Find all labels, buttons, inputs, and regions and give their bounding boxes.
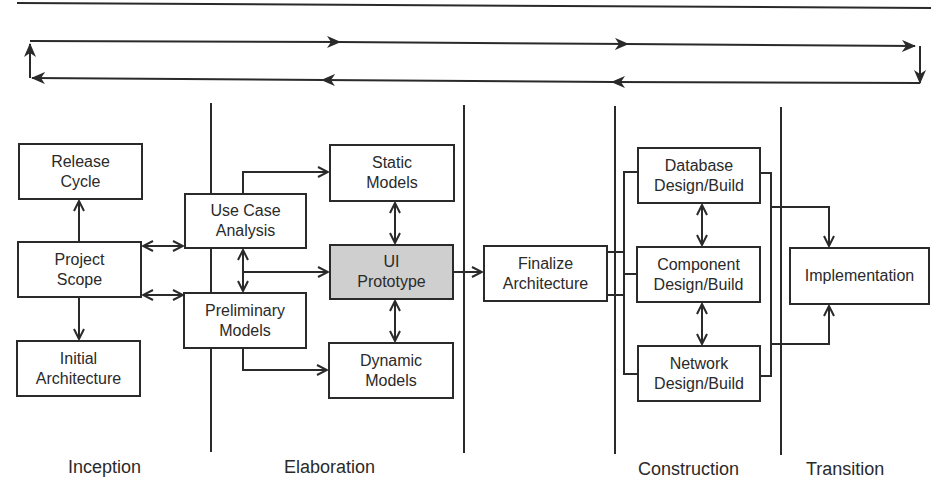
label-ui-prototype: UI Prototype bbox=[330, 245, 453, 299]
iteration-loop-arrows bbox=[30, 41, 920, 83]
label-database-design-build: Database Design/Build bbox=[638, 148, 760, 203]
phase-label-inception: Inception bbox=[68, 457, 141, 478]
label-project-scope: Project Scope bbox=[18, 242, 141, 297]
label-finalize-architecture: Finalize Architecture bbox=[484, 246, 607, 301]
phase-label-elaboration: Elaboration bbox=[284, 457, 375, 478]
label-use-case-analysis: Use Case Analysis bbox=[185, 194, 306, 248]
label-component-design-build: Component Design/Build bbox=[637, 247, 760, 302]
label-static-models: Static Models bbox=[330, 145, 454, 201]
label-dynamic-models: Dynamic Models bbox=[329, 343, 453, 398]
label-preliminary-models: Preliminary Models bbox=[184, 293, 306, 348]
label-initial-architecture: Initial Architecture bbox=[17, 341, 140, 396]
phase-label-construction: Construction bbox=[638, 459, 739, 480]
label-network-design-build: Network Design/Build bbox=[638, 346, 760, 401]
label-implementation: Implementation bbox=[790, 248, 929, 304]
top-rule bbox=[17, 3, 931, 8]
label-release-cycle: Release Cycle bbox=[19, 144, 142, 199]
phase-label-transition: Transition bbox=[806, 459, 884, 480]
